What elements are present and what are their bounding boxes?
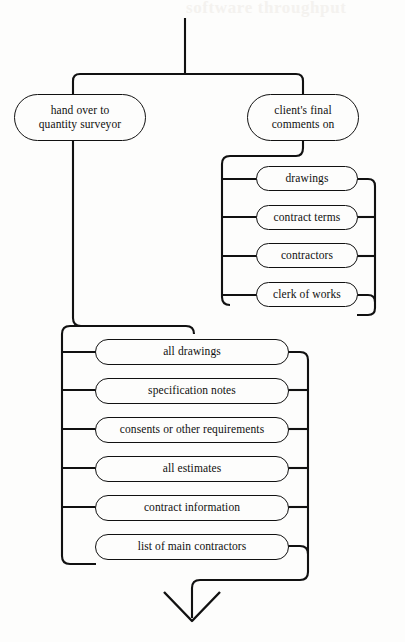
node-label: list of main contractors <box>138 540 247 554</box>
node-label: contractors <box>281 249 333 263</box>
branch-right-clerk-of-works <box>357 295 375 302</box>
handover-trunk-line <box>73 140 186 326</box>
node-clerk-of-works[interactable]: clerk of works <box>256 282 358 307</box>
node-drawings[interactable]: drawings <box>256 166 358 191</box>
node-all-estimates[interactable]: all estimates <box>95 456 289 482</box>
node-label: consents or other requirements <box>120 423 264 437</box>
node-line-2: quantity surveyor <box>39 118 122 132</box>
node-clients-final-comments-on[interactable]: client's final comments on <box>247 94 359 141</box>
node-label: specification notes <box>148 384 236 398</box>
node-hand-over-to-quantity-surveyor[interactable]: hand over to quantity surveyor <box>14 94 146 141</box>
node-label: clerk of works <box>273 288 341 302</box>
node-contract-terms[interactable]: contract terms <box>256 205 358 230</box>
node-consents-or-other-requirements[interactable]: consents or other requirements <box>95 417 289 443</box>
node-label: drawings <box>286 172 329 186</box>
branch-right-list-of-main-contractors <box>288 546 308 554</box>
node-label: all estimates <box>163 462 221 476</box>
ghost-bleedthrough-text: software throughput <box>186 0 400 18</box>
node-line-1: client's final <box>274 104 331 118</box>
node-label: contract terms <box>274 211 341 225</box>
node-label: all drawings <box>163 345 221 359</box>
node-contractors[interactable]: contractors <box>256 243 358 268</box>
node-line-2: comments on <box>272 118 335 132</box>
node-all-drawings[interactable]: all drawings <box>95 339 289 365</box>
flowchart-diagram: software throughput <box>0 0 405 642</box>
lower-trunk-elbow <box>186 326 194 334</box>
node-line-1: hand over to <box>51 104 110 118</box>
node-list-of-main-contractors[interactable]: list of main contractors <box>95 534 289 560</box>
node-specification-notes[interactable]: specification notes <box>95 378 289 404</box>
node-label: contract information <box>144 501 240 515</box>
node-contract-information[interactable]: contract information <box>95 495 289 521</box>
